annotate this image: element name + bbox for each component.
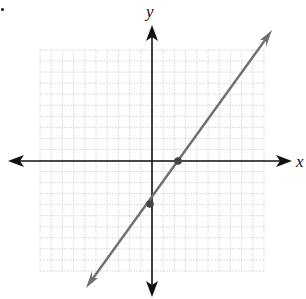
- x-axis-label: x: [295, 152, 304, 171]
- y-axis-label: y: [144, 2, 154, 21]
- x-axis: [8, 155, 292, 167]
- y-intercept-point: [146, 200, 154, 208]
- coordinate-plane: x y: [0, 0, 306, 299]
- x-intercept-point: [174, 157, 182, 165]
